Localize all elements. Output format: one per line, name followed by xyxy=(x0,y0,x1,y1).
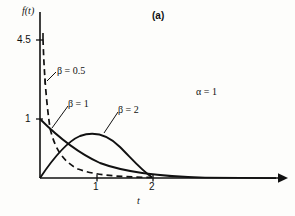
leader-beta-1 xyxy=(52,106,68,128)
annotation-beta-1: β = 1 xyxy=(68,99,89,109)
y-axis-label: f(t) xyxy=(22,6,34,16)
annotation-alpha: α = 1 xyxy=(196,87,217,97)
leader-beta-0-5 xyxy=(47,72,56,81)
x-axis-arrowhead xyxy=(278,173,288,183)
x-tick-label-1: 1 xyxy=(93,182,99,192)
y-tick-label-1: 1 xyxy=(25,114,31,124)
leader-beta-2 xyxy=(104,112,118,133)
panel-caption: (a) xyxy=(152,11,164,21)
x-tick-label-2: 2 xyxy=(149,182,155,192)
y-tick-label-4-5: 4.5 xyxy=(17,35,31,45)
annotation-beta-2: β = 2 xyxy=(118,105,139,115)
figure-panel: f(t) 4.5 1 1 2 t β = 0.5 β = 1 β = 2 α =… xyxy=(0,0,295,216)
x-axis-label: t xyxy=(137,196,140,206)
curve-beta-1 xyxy=(40,119,276,178)
annotation-beta-0-5: β = 0.5 xyxy=(57,66,85,76)
plot-canvas xyxy=(0,0,295,216)
